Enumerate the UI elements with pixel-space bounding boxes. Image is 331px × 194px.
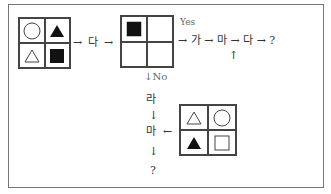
grid-start-cell-circle xyxy=(19,18,45,43)
grid-alternate xyxy=(179,104,237,156)
triangle-outline-icon xyxy=(186,111,202,125)
down-arrow-2: ↓ xyxy=(149,146,158,157)
question-mark: ? xyxy=(150,165,156,176)
circle-outline-icon xyxy=(213,109,231,127)
triangle-filled-icon xyxy=(186,136,202,150)
grid-alternate-cell-square xyxy=(208,130,236,155)
square-outline-icon xyxy=(214,135,230,151)
no-label: ↓No xyxy=(144,72,167,82)
grid-start-cell-triangle xyxy=(19,43,45,68)
triangle-outline-icon xyxy=(24,49,40,63)
up-arrow: ↑ xyxy=(229,50,238,61)
grid-start xyxy=(18,17,71,69)
grid-decision xyxy=(120,15,174,68)
grid-alternate-cell-filled-triangle xyxy=(180,130,208,155)
label-da: 다 xyxy=(88,37,98,48)
grid-decision-cell-empty xyxy=(121,42,147,68)
down-arrow-1: ↓ xyxy=(149,110,158,121)
grid-start-cell-filled-triangle xyxy=(45,18,71,43)
grid-decision-cell-filled-square xyxy=(121,16,147,42)
triangle-filled-icon xyxy=(49,24,65,38)
yes-chain: → 가 → 마 → 다 → ? xyxy=(178,35,275,46)
grid-start-cell-filled-square xyxy=(45,43,71,68)
arrow-2: → xyxy=(104,37,113,48)
left-arrow: ← xyxy=(163,126,172,137)
yes-label: Yes xyxy=(180,18,195,27)
square-filled-icon xyxy=(49,48,65,64)
grid-alternate-cell-triangle xyxy=(180,105,208,130)
circle-outline-icon xyxy=(23,22,41,40)
square-filled-icon xyxy=(127,21,142,36)
grid-decision-cell-empty xyxy=(147,42,173,68)
label-ra: 라 xyxy=(146,94,156,105)
grid-alternate-cell-circle xyxy=(208,105,236,130)
grid-decision-cell-empty xyxy=(147,16,173,42)
label-ma: 마 xyxy=(146,126,156,137)
arrow-1: → xyxy=(73,37,82,48)
